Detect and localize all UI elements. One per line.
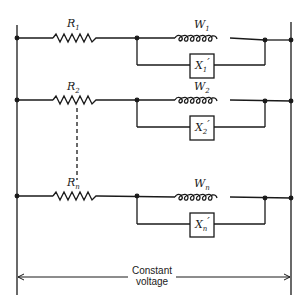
resistor-r1 — [53, 34, 98, 42]
branch-n — [15, 192, 293, 237]
label-x1: X1′ — [194, 56, 210, 74]
branch-2 — [15, 96, 293, 140]
label-xn: Xn′ — [194, 215, 210, 233]
resistor-r2 — [53, 96, 98, 104]
coil-w1 — [175, 35, 217, 41]
coil-wn — [175, 194, 217, 200]
label-rn: Rn — [66, 176, 80, 191]
label-w2: W2 — [194, 80, 210, 95]
label-r2: R2 — [66, 80, 80, 95]
resistor-rn — [53, 192, 98, 200]
label-x2: X2′ — [194, 118, 210, 136]
caption-line2: voltage — [136, 276, 169, 287]
coil-w2 — [175, 97, 217, 103]
label-wn: Wn — [194, 177, 210, 192]
label-r1: R1 — [66, 17, 80, 32]
caption-line1: Constant — [132, 265, 172, 276]
branch-1 — [15, 34, 293, 78]
circuit-diagram: R1 R2 Rn W1 W2 Wn X1′ X2′ Xn′ Constant v… — [0, 0, 306, 305]
label-w1: W1 — [194, 18, 210, 33]
